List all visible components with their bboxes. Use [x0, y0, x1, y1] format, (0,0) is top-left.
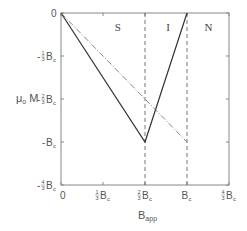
svg-text:B: B: [46, 51, 53, 62]
x-axis-label: Bapp: [138, 209, 157, 223]
svg-text:3: 3: [95, 195, 98, 201]
tick-label: 43Bc: [221, 189, 236, 202]
y-ticks: 0-13Bc-23Bc-Bc-43Bc: [37, 8, 229, 192]
region-label: I: [166, 21, 170, 33]
svg-text:3: 3: [42, 185, 45, 191]
tick-label: 0: [60, 190, 66, 201]
tick-label: 13Bc: [95, 189, 110, 202]
svg-text:-: -: [42, 137, 45, 148]
svg-text:c: c: [53, 100, 56, 106]
svg-text:B: B: [100, 190, 107, 201]
svg-text:0: 0: [51, 8, 57, 19]
svg-text:c: c: [233, 196, 236, 202]
chart: 013Bc23BcBc43Bc 0-13Bc-23Bc-Bc-43Bc SIN …: [0, 0, 247, 231]
svg-text:c: c: [107, 196, 110, 202]
svg-text:-: -: [37, 51, 40, 62]
region-label: N: [204, 21, 212, 33]
region-labels: SIN: [115, 21, 213, 33]
svg-text:c: c: [149, 196, 152, 202]
region-boundaries: [145, 13, 187, 185]
tick-label: -13Bc: [37, 50, 56, 63]
svg-text:B: B: [46, 180, 53, 191]
svg-text:B: B: [226, 190, 233, 201]
x-ticks: 013Bc23BcBc43Bc: [60, 13, 236, 202]
svg-text:B: B: [142, 190, 149, 201]
svg-text:c: c: [53, 186, 56, 192]
svg-text:-: -: [37, 180, 40, 191]
svg-text:c: c: [189, 196, 192, 202]
svg-text:3: 3: [138, 195, 141, 201]
tick-label: -43Bc: [37, 179, 56, 192]
tick-label: -Bc: [42, 137, 56, 149]
svg-text:3: 3: [42, 99, 45, 105]
svg-text:B: B: [46, 94, 53, 105]
svg-text:c: c: [53, 143, 56, 149]
tick-label: Bc: [182, 190, 192, 202]
svg-text:0: 0: [60, 190, 66, 201]
tick-label: -23Bc: [37, 93, 56, 106]
svg-text:3: 3: [222, 195, 225, 201]
svg-text:B: B: [182, 190, 189, 201]
region-label: S: [115, 21, 121, 33]
svg-text:c: c: [53, 57, 56, 63]
tick-label: 0: [51, 8, 57, 19]
y-axis-label: μo M: [16, 92, 38, 105]
svg-text:B: B: [46, 137, 53, 148]
svg-text:3: 3: [42, 56, 45, 62]
tick-label: 23Bc: [137, 189, 152, 202]
